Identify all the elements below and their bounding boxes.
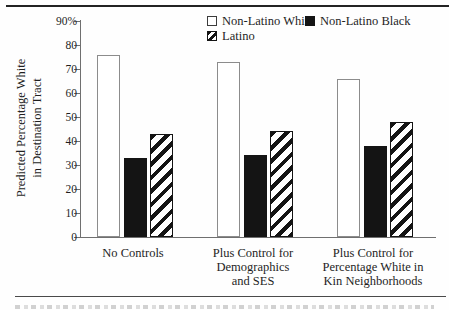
y-tick-label-10: 10	[30, 207, 77, 219]
bar-non-latino-white-group1	[97, 55, 120, 237]
y-tick-label-40: 40	[30, 135, 77, 147]
top-rule	[6, 5, 449, 7]
y-tick-label-80: 80	[30, 39, 77, 51]
bar-non-latino-black-group3	[364, 146, 387, 237]
y-tick-label-60: 60	[30, 87, 77, 99]
bar-latino-group3	[390, 122, 413, 237]
x-axis-line	[80, 237, 436, 238]
legend-label: Latino	[222, 29, 255, 44]
x-category-label-line: Kin Neighborhoods	[324, 274, 423, 288]
y-axis-line	[80, 20, 81, 238]
y-tick-label-50: 50	[30, 111, 77, 123]
bar-non-latino-black-group2	[244, 155, 267, 237]
y-tick-label-30: 30	[30, 159, 77, 171]
x-category-label-line: and SES	[232, 274, 275, 288]
y-tick-label-0: 0	[30, 231, 77, 243]
x-category-label-line: Demographics	[217, 260, 290, 274]
y-axis-title: Predicted Percentage White in Destinatio…	[13, 32, 47, 224]
x-category-label-3: Plus Control forPercentage White inKin N…	[298, 246, 448, 288]
bar-latino-group1	[150, 134, 173, 237]
open-square-swatch-icon	[207, 16, 217, 26]
y-axis-title-line1: Predicted Percentage White	[14, 59, 28, 198]
legend-label: Non-Latino White	[222, 14, 314, 29]
bar-latino-group2	[270, 131, 293, 237]
legend-label: Non-Latino Black	[320, 14, 411, 29]
x-category-label-line: Plus Control for	[333, 246, 414, 260]
bar-non-latino-black-group1	[124, 158, 147, 237]
x-category-label-line: No Controls	[102, 246, 163, 260]
bar-non-latino-white-group3	[337, 79, 360, 237]
y-tick-label-90: 90%	[30, 15, 77, 27]
y-tick-label-20: 20	[30, 183, 77, 195]
y-tick-label-70: 70	[30, 63, 77, 75]
bottom-rule	[15, 296, 446, 297]
solid-square-swatch-icon	[305, 16, 315, 26]
figure-container: Predicted Percentage White in Destinatio…	[0, 0, 449, 310]
x-category-label-line: Percentage White in	[322, 260, 423, 274]
bar-non-latino-white-group2	[217, 62, 240, 237]
hatched-square-swatch-icon	[207, 31, 217, 41]
x-category-label-line: Plus Control for	[213, 246, 294, 260]
cropped-caption-text	[15, 305, 434, 309]
